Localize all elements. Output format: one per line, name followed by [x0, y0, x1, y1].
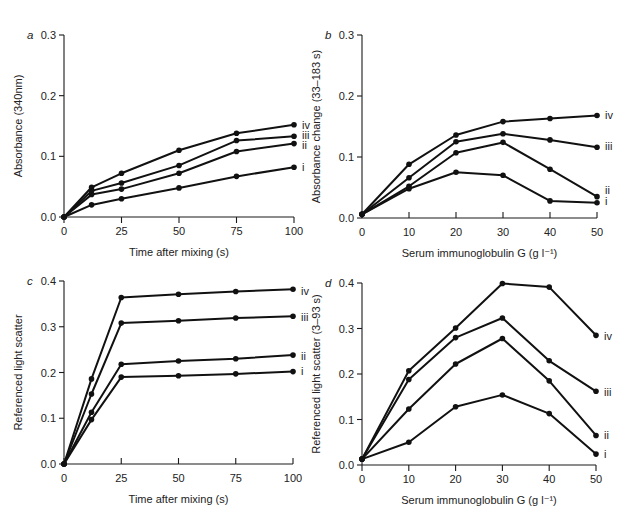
data-point [546, 358, 552, 364]
data-point [406, 406, 412, 412]
x-tick-label: 100 [285, 225, 303, 237]
x-axis-title: Time after mixing (s) [129, 246, 229, 258]
x-tick-label: 50 [173, 225, 185, 237]
series-label: ii [301, 350, 306, 362]
data-point [118, 374, 124, 380]
data-point [453, 139, 459, 145]
data-point [89, 410, 95, 416]
x-tick-label: 25 [115, 472, 127, 484]
series-iv: iv [61, 119, 310, 220]
data-point [406, 439, 412, 445]
y-tick-label: 0.3 [41, 29, 56, 41]
data-point [359, 212, 365, 218]
x-tick-label: 20 [450, 226, 462, 238]
data-point [233, 371, 239, 377]
series-line [362, 116, 597, 215]
y-axis-title: Referenced light scatter [12, 314, 24, 431]
series-label: i [301, 365, 303, 377]
y-tick-label: 0.0 [41, 458, 56, 470]
y-tick-label: 0.0 [339, 459, 354, 471]
data-point [119, 186, 125, 192]
series-label: iv [301, 285, 309, 297]
series-label: iii [605, 140, 612, 152]
x-tick-label: 30 [497, 226, 509, 238]
x-tick-label: 25 [115, 225, 127, 237]
chart-canvas: 0.00.10.20.30255075100aTime after mixing… [0, 0, 632, 529]
data-point [233, 315, 239, 321]
data-point [176, 291, 182, 297]
y-axis-title: Referenced light scatter (3–93 s) [310, 294, 322, 454]
data-point [176, 171, 182, 177]
data-point [233, 289, 239, 295]
series-ii: ii [61, 350, 306, 467]
data-point [500, 119, 506, 125]
panel-letter: b [325, 29, 332, 41]
data-point [89, 417, 95, 423]
data-point [89, 202, 95, 208]
data-point [453, 325, 459, 331]
data-point [500, 131, 506, 137]
x-axis-title: Serum immunoglobulin G (g l⁻¹) [402, 247, 558, 259]
series-line [362, 318, 596, 459]
y-tick-label: 0.0 [339, 212, 354, 224]
x-tick-label: 40 [544, 226, 556, 238]
y-tick-label: 0.2 [339, 90, 354, 102]
data-point [406, 377, 412, 383]
data-point [234, 149, 240, 155]
data-point [359, 456, 365, 462]
data-point [593, 388, 599, 394]
x-axis-title: Time after mixing (s) [129, 493, 229, 505]
data-point [233, 356, 239, 362]
y-tick-label: 0.3 [41, 321, 56, 333]
data-point [546, 378, 552, 384]
y-tick-label: 0.3 [339, 323, 354, 335]
y-tick-label: 0.1 [339, 151, 354, 163]
series-label: iv [605, 109, 613, 121]
data-point [234, 138, 240, 144]
data-point [593, 333, 599, 339]
x-tick-label: 100 [284, 472, 302, 484]
y-tick-label: 0.2 [41, 367, 56, 379]
panel-letter: d [325, 277, 332, 289]
series-label: i [605, 195, 607, 207]
data-point [176, 318, 182, 324]
data-point [547, 166, 553, 172]
x-tick-label: 30 [496, 473, 508, 485]
series-label: iii [604, 386, 611, 398]
series-line [362, 395, 596, 459]
data-point [593, 451, 599, 457]
y-tick-label: 0.1 [339, 414, 354, 426]
data-point [290, 369, 296, 375]
x-tick-label: 40 [543, 473, 555, 485]
data-point [453, 361, 459, 367]
data-point [547, 198, 553, 204]
data-point [291, 141, 297, 147]
y-axis-title: Absorbance (340nm) [12, 75, 24, 178]
data-point [234, 174, 240, 180]
data-point [290, 286, 296, 292]
series-label: ii [604, 429, 609, 441]
data-point [593, 433, 599, 439]
y-tick-label: 0.4 [339, 277, 354, 289]
data-point [291, 164, 297, 170]
data-point [594, 144, 600, 150]
series-iv: iv [359, 109, 613, 217]
data-point [290, 352, 296, 358]
series-line [64, 144, 294, 217]
x-tick-label: 0 [61, 472, 67, 484]
data-point [546, 284, 552, 290]
data-point [453, 132, 459, 138]
panel-a: 0.00.10.20.30255075100aTime after mixing… [12, 29, 310, 258]
x-tick-label: 50 [172, 472, 184, 484]
series-line [64, 316, 293, 464]
series-iii: iii [61, 129, 309, 220]
data-point [176, 147, 182, 153]
data-point [594, 113, 600, 119]
data-point [118, 320, 124, 326]
data-point [594, 194, 600, 200]
x-tick-label: 50 [590, 473, 602, 485]
data-point [118, 295, 124, 301]
x-tick-label: 75 [230, 472, 242, 484]
data-point [500, 336, 506, 342]
panel-c: 0.00.10.20.30.40255075100cTime after mix… [12, 275, 309, 505]
